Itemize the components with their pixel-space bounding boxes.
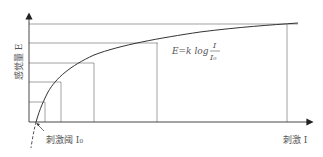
formula-denominator: I₀ [209, 53, 217, 62]
formula-lhs: E=k log [171, 46, 209, 56]
horizontal-guide-lines [29, 24, 298, 102]
log-curve [36, 23, 298, 122]
formula: E=k log I I₀ [171, 41, 220, 62]
y-axis-label: 感觉量 E [13, 44, 24, 80]
curve-extension-dashed [31, 122, 36, 148]
threshold-label: 刺激阈 I₀ [46, 134, 83, 145]
formula-numerator: I [212, 41, 217, 50]
threshold-pointer-arrow-icon [36, 123, 40, 126]
x-axis-label: 刺激 I [283, 134, 308, 145]
weber-fechner-diagram: 感觉量 E 刺激 I 刺激阈 I₀ E=k log I I₀ [0, 0, 323, 157]
vertical-guide-lines [45, 24, 287, 122]
